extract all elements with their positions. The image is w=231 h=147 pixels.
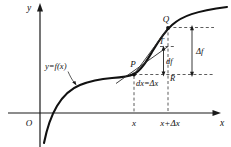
tangent-line-at-p <box>116 47 168 84</box>
point-t-label: T <box>159 37 165 46</box>
df-label: df <box>166 57 174 66</box>
secant-line-p-to-q <box>134 28 168 75</box>
delta-f-measure-group <box>190 25 194 77</box>
delta-f-label: Δf <box>195 46 205 56</box>
x-tick-label-x: x <box>131 118 136 128</box>
function-label-leader-arrowhead <box>72 81 76 86</box>
point-p-label: P <box>129 59 136 69</box>
dx-label: dx=Δx <box>136 79 158 88</box>
axes-group <box>8 3 221 147</box>
x-axis-arrowhead <box>213 110 222 116</box>
diagram-canvas: y x O y=f(x) <box>0 0 231 147</box>
differential-diagram-figure: y x O y=f(x) <box>0 0 231 147</box>
point-p-marker <box>132 73 136 77</box>
origin-label: O <box>26 118 33 128</box>
x-tick-label-x-plus-delta-x: x+Δx <box>159 118 179 128</box>
point-q-marker <box>166 26 170 30</box>
y-axis-arrowhead <box>37 3 43 12</box>
y-axis-label: y <box>26 3 32 13</box>
construction-lines-group <box>134 27 214 113</box>
point-q-label: Q <box>163 14 170 24</box>
df-measure-group <box>162 46 166 77</box>
df-arrowhead-down <box>162 71 166 76</box>
function-label: y=f(x) <box>44 61 67 71</box>
x-axis-label: x <box>219 118 225 128</box>
point-r-label: R <box>169 74 175 83</box>
